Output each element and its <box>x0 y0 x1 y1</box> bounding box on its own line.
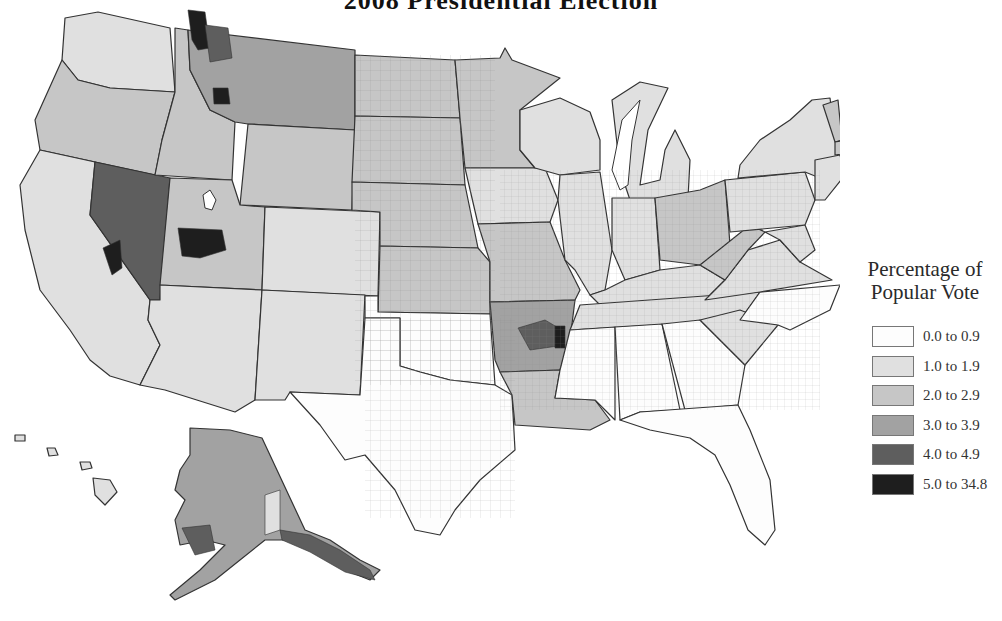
legend-title-line1: Percentage of <box>848 258 1002 281</box>
legend-label: 1.0 to 1.9 <box>923 358 980 375</box>
us-county-map <box>0 0 840 621</box>
legend-label: 4.0 to 4.9 <box>923 446 980 463</box>
state-wyoming <box>240 124 355 210</box>
hotspot-montana-a <box>205 25 232 62</box>
county-grid-east <box>500 170 820 410</box>
legend-label: 2.0 to 2.9 <box>923 387 980 404</box>
county-grid-texas <box>365 318 515 518</box>
legend-label: 0.0 to 0.9 <box>923 328 980 345</box>
legend-item: 4.0 to 4.9 <box>872 440 1002 470</box>
legend-title-line2: Popular Vote <box>848 281 1002 304</box>
legend-item: 5.0 to 34.8 <box>872 470 1002 500</box>
legend-list: 0.0 to 0.9 1.0 to 1.9 2.0 to 2.9 3.0 to … <box>872 322 1002 499</box>
legend-swatch <box>872 444 914 465</box>
state-hawaii-big <box>93 478 117 505</box>
state-new-mexico <box>255 290 365 400</box>
legend-label: 5.0 to 34.8 <box>923 476 987 493</box>
state-arizona <box>140 285 262 412</box>
alaska-se-dark <box>280 530 375 580</box>
legend-swatch <box>872 326 914 347</box>
state-wisconsin <box>520 98 600 175</box>
legend-swatch <box>872 356 914 377</box>
legend-item: 2.0 to 2.9 <box>872 381 1002 411</box>
legend-title: Percentage of Popular Vote <box>848 258 1002 304</box>
legend-swatch <box>872 385 914 406</box>
hotspot-mt-dark2 <box>213 88 230 104</box>
legend-item: 0.0 to 0.9 <box>872 322 1002 352</box>
legend-item: 1.0 to 1.9 <box>872 352 1002 382</box>
legend-swatch <box>872 474 914 495</box>
state-hawaii-kauai <box>15 435 25 441</box>
state-hawaii-oahu <box>47 448 58 456</box>
legend-swatch <box>872 415 914 436</box>
legend: Percentage of Popular Vote 0.0 to 0.9 1.… <box>848 258 1002 499</box>
legend-item: 3.0 to 3.9 <box>872 411 1002 441</box>
state-florida <box>620 405 775 545</box>
legend-label: 3.0 to 3.9 <box>923 417 980 434</box>
state-hawaii-maui <box>80 462 92 470</box>
alaska-light <box>265 490 280 535</box>
